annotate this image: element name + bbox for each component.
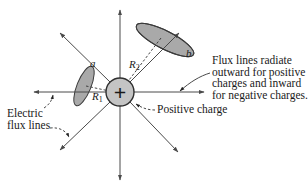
radius-r2-label: R2 (128, 58, 140, 72)
positive-charge: + (106, 78, 134, 106)
surface-a-label: a (90, 57, 96, 69)
plus-sign: + (114, 80, 127, 105)
flux-lines-leader-lower (50, 128, 69, 137)
flux-direction-leader (180, 73, 210, 91)
flux-direction-note: Flux lines radiate outward for positive … (212, 54, 308, 102)
flux-lines-label: Electric flux lines (7, 107, 51, 131)
positive-charge-label: Positive charge (157, 103, 227, 116)
positive-charge-leader (136, 104, 155, 110)
surface-b-label: b (186, 47, 192, 59)
flux-line-lower-left (60, 102, 110, 150)
electric-flux-diagram: + a b R1 R2 Positive charge Electric flu… (0, 0, 308, 193)
